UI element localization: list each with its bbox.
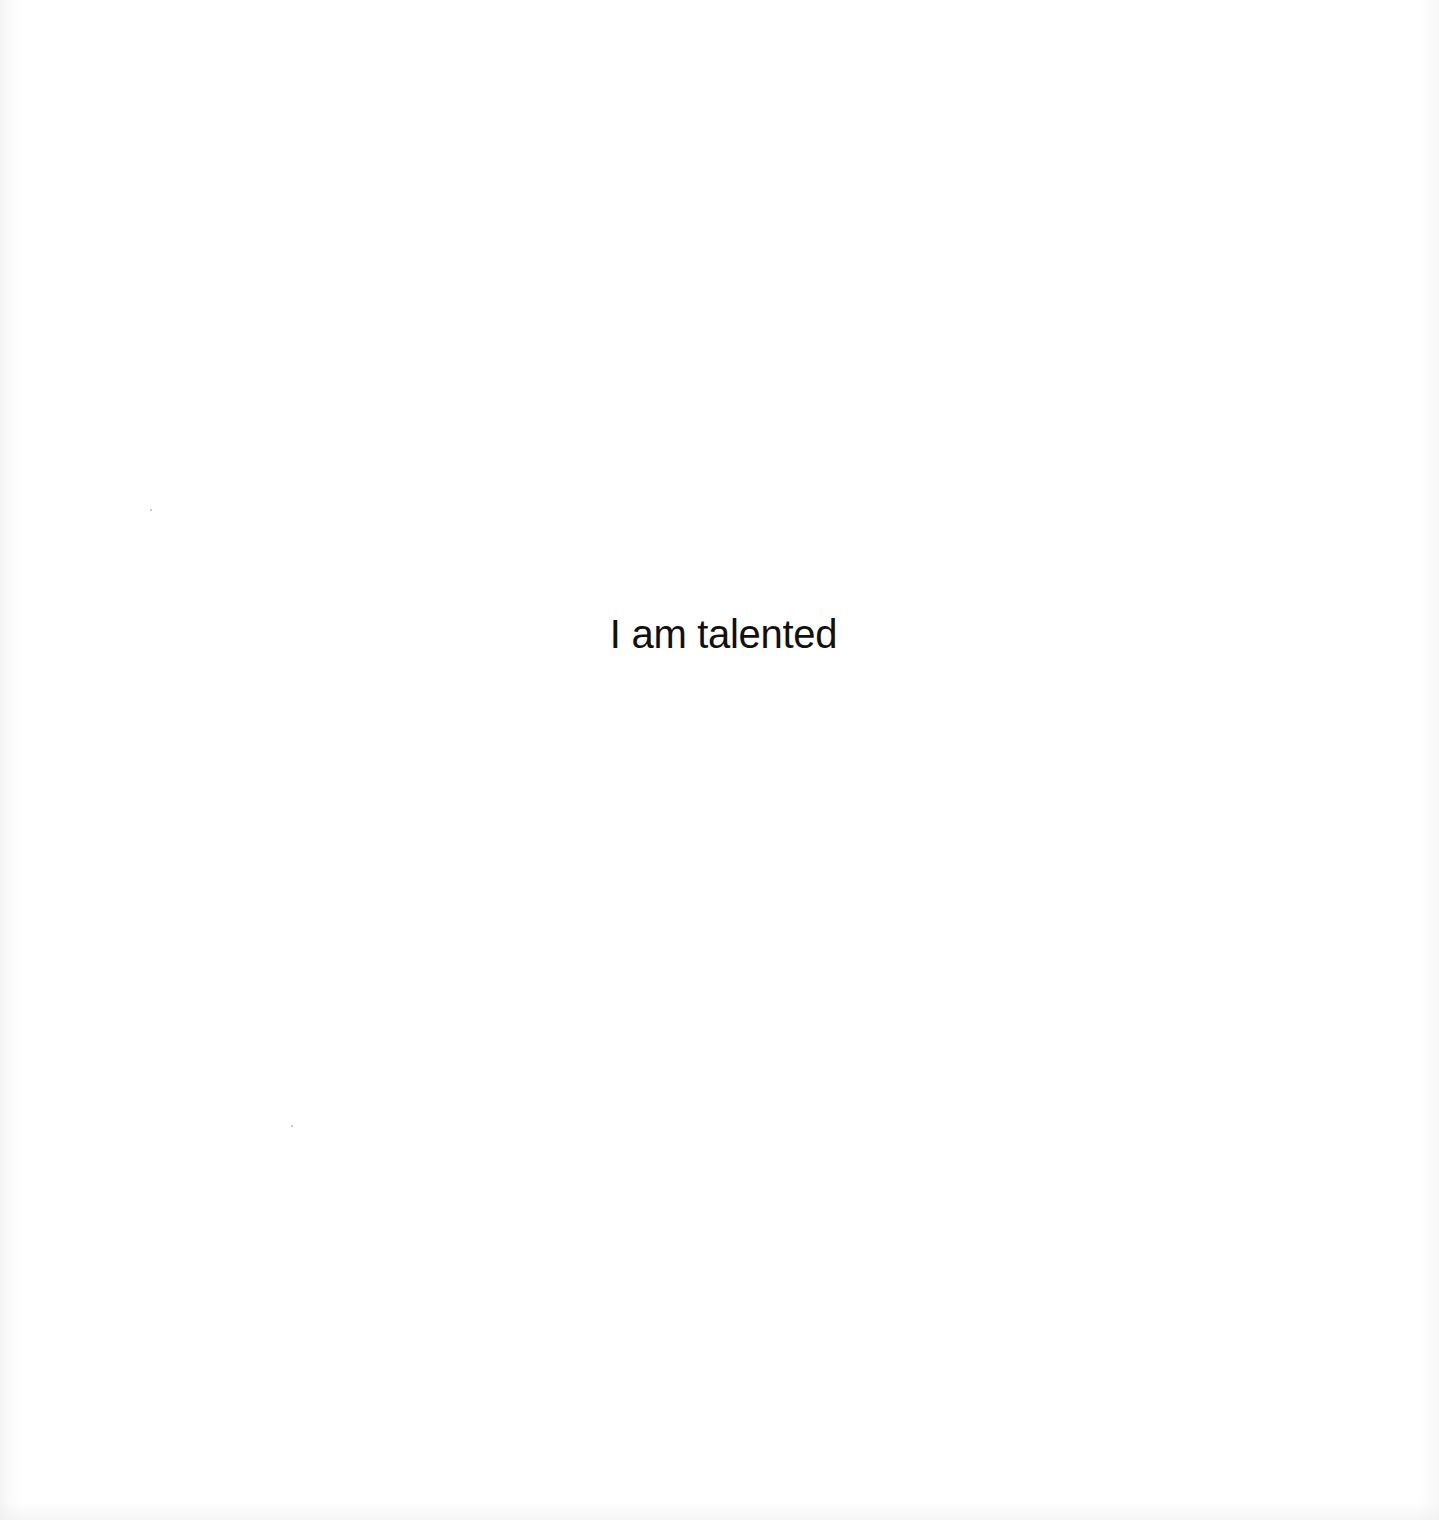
scan-speck xyxy=(291,1125,293,1127)
scan-speck xyxy=(150,509,152,511)
scanned-page: I am talented xyxy=(0,0,1439,1520)
statement-text: I am talented xyxy=(0,607,1439,661)
